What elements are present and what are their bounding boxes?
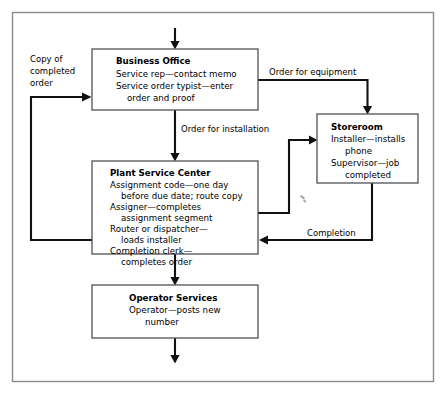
- plant-service-center-line-4: assignment segment: [121, 213, 213, 223]
- storeroom-title: Storeroom: [331, 122, 383, 132]
- edge-order-for-installation: [170, 110, 179, 162]
- storeroom-line-4: completed: [345, 170, 391, 180]
- scan-artifact-2: [303, 200, 306, 203]
- label-completion: Completion: [307, 228, 356, 238]
- edge-exit-from-operator-services: [170, 338, 179, 364]
- plant-service-center-line-7: Completion clerk—: [110, 246, 193, 256]
- storeroom-line-3: Supervisor—job: [331, 158, 400, 168]
- business-office-line-2: Service order typist—enter: [116, 81, 233, 91]
- label-copy-of-completed-order-line-3: order: [30, 78, 53, 88]
- plant-service-center-title: Plant Service Center: [110, 168, 211, 178]
- label-copy-of-completed-order-line-1: Copy of: [30, 54, 63, 64]
- business-office-title: Business Office: [116, 56, 191, 66]
- storeroom-line-2: phone: [345, 146, 372, 156]
- plant-service-center-line-8: completes order: [121, 257, 192, 267]
- plant-service-center-line-6: loads installer: [121, 235, 182, 245]
- operator-services-line-1: Operator—posts new: [129, 305, 221, 315]
- business-office-line-1: Service rep—contact memo: [116, 69, 237, 79]
- label-order-for-equipment: Order for equipment: [269, 67, 357, 77]
- flowchart-page: Business Office Service rep—contact memo…: [0, 0, 446, 394]
- edge-order-for-equipment: [258, 80, 372, 115]
- business-office-line-3: order and proof: [127, 93, 196, 103]
- scan-artifact: [300, 195, 305, 199]
- plant-service-center-line-3: Assigner—completes: [110, 202, 202, 212]
- operator-services-line-2: number: [145, 317, 179, 327]
- plant-service-center-line-2: before due date; route copy: [121, 191, 243, 201]
- edge-entry-to-business-office: [170, 28, 179, 50]
- label-order-for-installation: Order for installation: [181, 124, 269, 134]
- storeroom-line-1: Installer—installs: [331, 134, 406, 144]
- edge-plant-to-storeroom: [258, 135, 318, 213]
- operator-services-title: Operator Services: [129, 293, 217, 303]
- flowchart-svg: Business Office Service rep—contact memo…: [0, 0, 446, 394]
- edge-copy-of-completed-order: [31, 92, 92, 240]
- plant-service-center-line-1: Assignment code—one day: [110, 180, 228, 190]
- plant-service-center-line-5: Router or dispatcher—: [110, 224, 208, 234]
- label-copy-of-completed-order-line-2: completed: [30, 66, 75, 76]
